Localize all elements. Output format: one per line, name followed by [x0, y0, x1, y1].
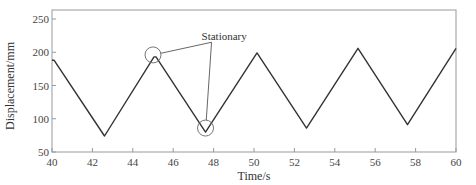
- x-tick-label: 58: [410, 156, 422, 168]
- y-tick-label: 200: [33, 46, 50, 58]
- x-tick-label: 56: [370, 156, 382, 168]
- plot-area: [52, 10, 456, 152]
- x-tick-label: 46: [168, 156, 180, 168]
- y-axis-label: Displacement/mm: [3, 41, 17, 130]
- x-tick-label: 50: [249, 156, 261, 168]
- x-tick-label: 40: [47, 156, 59, 168]
- y-tick-label: 250: [33, 13, 50, 25]
- x-tick-label: 48: [208, 156, 220, 168]
- x-tick-label: 60: [451, 156, 463, 168]
- annotation-label: Stationary: [202, 30, 248, 42]
- x-tick-label: 42: [87, 156, 98, 168]
- y-tick-label: 100: [33, 113, 50, 125]
- x-tick-label: 52: [289, 156, 300, 168]
- x-tick-label: 54: [329, 156, 341, 168]
- x-axis-label: Time/s: [238, 169, 271, 183]
- displacement-chart: 50100150200250 4042444648505254565860 St…: [0, 0, 476, 185]
- y-tick-label: 150: [33, 80, 50, 92]
- x-tick-label: 44: [127, 156, 139, 168]
